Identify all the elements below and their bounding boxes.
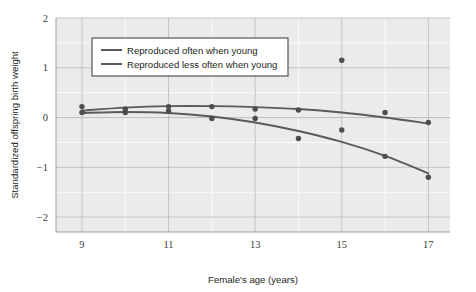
y-tick-label: 0: [43, 112, 48, 123]
x-tick-label: 15: [337, 239, 348, 250]
data-point: [339, 58, 344, 63]
y-tick-label: 1: [43, 62, 48, 73]
x-tick-label: 11: [164, 239, 174, 250]
data-point: [123, 110, 128, 115]
y-axis-title: Standardized offspring birth weight: [9, 51, 20, 199]
data-point: [209, 104, 214, 109]
data-point: [79, 104, 84, 109]
y-tick-label: −1: [37, 162, 48, 173]
x-axis-title: Female's age (years): [208, 274, 298, 285]
data-point: [426, 175, 431, 180]
x-tick-label: 13: [250, 239, 261, 250]
legend-label-less-often: Reproduced less often when young: [127, 59, 277, 70]
data-point: [426, 120, 431, 125]
data-point: [296, 107, 301, 112]
legend-label-often: Reproduced often when young: [127, 45, 258, 56]
chart-figure: 911131517 210−1−2 Female's age (years) S…: [0, 0, 476, 292]
data-point: [382, 154, 387, 159]
data-point: [382, 110, 387, 115]
data-point: [209, 116, 214, 121]
data-point: [339, 127, 344, 132]
y-tick-label: −2: [37, 212, 48, 223]
data-point: [166, 108, 171, 113]
x-tick-label: 17: [423, 239, 434, 250]
scatter-plot: 911131517 210−1−2 Female's age (years) S…: [0, 0, 476, 292]
x-axis-tick-labels: 911131517: [79, 239, 433, 250]
data-point: [79, 110, 84, 115]
y-axis-tick-labels: 210−1−2: [37, 13, 48, 223]
data-point: [252, 106, 257, 111]
data-point: [296, 136, 301, 141]
x-tick-label: 9: [79, 239, 84, 250]
y-tick-label: 2: [43, 13, 48, 24]
data-point: [252, 116, 257, 121]
chart-legend: Reproduced often when young Reproduced l…: [92, 38, 288, 76]
